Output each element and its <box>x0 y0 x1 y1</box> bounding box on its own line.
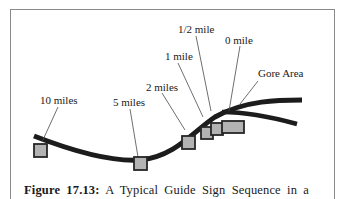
sign-0-mile <box>222 121 244 133</box>
sign-5-miles <box>134 157 147 170</box>
caption-label: Figure 17.13: <box>24 183 100 197</box>
label-half-mile: 1/2 mile <box>178 23 214 35</box>
label-5-miles: 5 miles <box>113 96 145 108</box>
guide-sign-diagram: 10 miles 5 miles 2 miles 1 mile 1/2 mile… <box>0 0 344 199</box>
label-2-miles: 2 miles <box>146 81 178 93</box>
label-0-mile: 0 mile <box>225 34 253 46</box>
sign-2-miles <box>182 136 195 149</box>
caption-text: A Typical Guide Sign Sequence in a <box>105 183 309 197</box>
label-1-mile: 1 mile <box>165 50 193 62</box>
label-10-miles: 10 miles <box>40 94 78 106</box>
mainline-road <box>34 100 302 160</box>
label-gore-area: Gore Area <box>258 67 304 79</box>
figure-caption: Figure 17.13: A Typical Guide Sign Seque… <box>24 183 324 198</box>
sign-10-miles <box>34 144 47 157</box>
